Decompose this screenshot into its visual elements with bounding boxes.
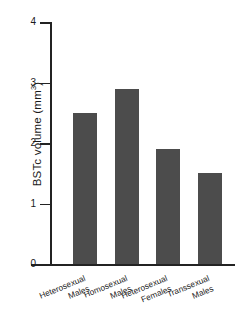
bars-layer: [0, 0, 245, 265]
bar-heterosexual-females[interactable]: [156, 149, 180, 264]
bar-transsexual-males[interactable]: [198, 173, 222, 264]
bar-heterosexual-males[interactable]: [73, 113, 97, 264]
bar-chart-figure: BSTc volume (mm3) 4 3 2 1 0 Heterosexual…: [0, 0, 245, 319]
x-axis-labels: Heterosexual Males Homosexual Males Hete…: [0, 264, 245, 319]
bar-homosexual-males[interactable]: [115, 89, 139, 264]
